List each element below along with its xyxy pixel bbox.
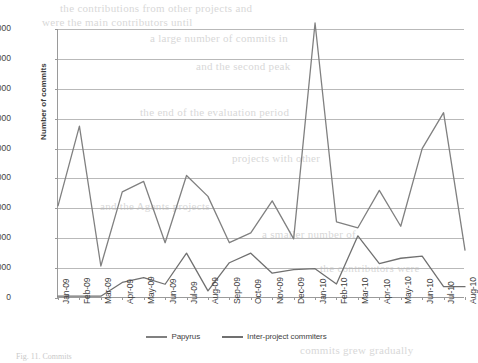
- x-tick-label: Apr-10: [382, 279, 392, 304]
- chart-legend: PapyrusInter-project commiters: [0, 332, 473, 341]
- x-tick-label: Jul-09: [189, 281, 199, 304]
- x-tick-label: Mar-10: [360, 278, 370, 304]
- legend-item[interactable]: Inter-project commiters: [222, 332, 327, 341]
- x-tick-label: Nov-09: [275, 277, 285, 304]
- bleed-text-line: the contributions from other projects an…: [60, 2, 252, 14]
- legend-swatch-icon: [146, 336, 167, 338]
- x-tick-label: Dec-09: [296, 277, 306, 304]
- x-tick-label: Mar-09: [103, 278, 113, 304]
- bleed-text-line: commits grew gradually: [300, 344, 414, 356]
- x-tick-label: Sep-09: [232, 277, 242, 304]
- x-tick-label: Aug-09: [210, 277, 220, 304]
- x-tick-mark: [465, 297, 466, 300]
- figure-caption: Fig. 11. Commits: [16, 352, 72, 361]
- y-tick-label: 7000: [0, 83, 11, 93]
- y-tick-label: 8000: [0, 53, 11, 63]
- x-tick-label: Jul-10: [446, 281, 456, 304]
- plot-area: [57, 29, 464, 298]
- x-tick-label: May-10: [403, 276, 413, 304]
- x-tick-label: Jun-09: [168, 279, 178, 304]
- y-tick-label: 3000: [0, 202, 11, 212]
- x-tick-label: Feb-10: [339, 278, 349, 304]
- y-axis-title: Number of commits: [39, 42, 48, 162]
- x-tick-label: Aug-10: [468, 277, 478, 304]
- y-tick-label: 6000: [0, 113, 11, 123]
- x-tick-label: Jan-10: [318, 279, 328, 304]
- x-tick-label: Feb-09: [82, 278, 92, 304]
- bleed-text-line: were the main contributors until: [42, 16, 193, 28]
- legend-label: Inter-project commiters: [247, 332, 327, 341]
- y-tick-label: 9000: [0, 23, 11, 33]
- x-tick-label: Jan-09: [61, 279, 71, 304]
- y-tick-label: 4000: [0, 172, 11, 182]
- x-tick-label: Oct-09: [253, 279, 263, 304]
- series-line: [58, 23, 465, 266]
- y-tick-label: 1000: [0, 262, 11, 272]
- legend-item[interactable]: Papyrus: [146, 332, 200, 341]
- series-lines: [58, 29, 465, 298]
- y-tick-label: 5000: [0, 143, 11, 153]
- x-tick-label: May-09: [146, 276, 156, 304]
- x-tick-label: Jun-10: [425, 279, 435, 304]
- x-tick-label: Apr-09: [125, 279, 135, 304]
- legend-swatch-icon: [222, 336, 243, 338]
- y-tick-label: 2000: [0, 232, 11, 242]
- y-tick-label: 0: [0, 292, 11, 302]
- legend-label: Papyrus: [171, 332, 200, 341]
